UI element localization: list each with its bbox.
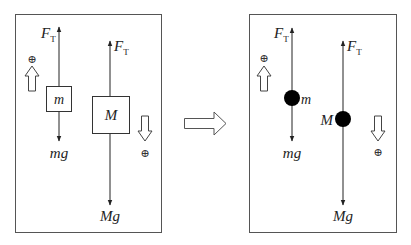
left-panel-frame xyxy=(16,15,162,233)
point-m xyxy=(284,90,300,106)
point-M xyxy=(335,111,351,127)
transform-arrow-icon xyxy=(185,112,227,135)
positive-sign-M-point: ⊕ xyxy=(373,146,382,158)
weight-label-m: mg xyxy=(50,145,69,161)
point-m-label: m xyxy=(301,92,311,107)
tension-label-M-point: FT xyxy=(346,38,362,57)
tension-label-m-point: FT xyxy=(273,25,289,44)
tension-label-m: FT xyxy=(40,25,56,44)
positive-down-arrow-icon xyxy=(138,116,152,141)
weight-label-m-point: mg xyxy=(283,145,302,161)
weight-label-M: Mg xyxy=(99,208,120,224)
right-panel: FT m mg ⊕ FT M Mg ⊕ xyxy=(250,15,397,233)
positive-sign-m-point: ⊕ xyxy=(259,52,268,64)
atwood-diagram: FT m mg ⊕ FT M Mg ⊕ FT m mg ⊕ FT xyxy=(0,0,411,245)
weight-label-M-point: Mg xyxy=(332,208,353,224)
positive-down-arrow-icon-point xyxy=(371,116,385,141)
block-m-label: m xyxy=(54,92,64,107)
positive-up-arrow-icon xyxy=(25,66,39,91)
block-M-label: M xyxy=(104,107,119,123)
positive-sign-m: ⊕ xyxy=(27,53,36,65)
point-M-label: M xyxy=(320,112,335,128)
tension-label-M: FT xyxy=(113,38,129,57)
left-panel: FT m mg ⊕ FT M Mg ⊕ xyxy=(16,15,162,233)
positive-up-arrow-icon-point xyxy=(257,66,271,91)
positive-sign-M: ⊕ xyxy=(140,147,149,159)
